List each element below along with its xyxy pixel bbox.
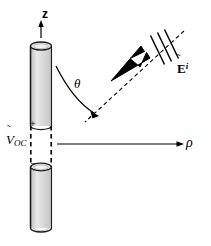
propagation-direction-arrow: [111, 46, 150, 81]
antenna-diagram-figure: z θ ρ ˜VOC ˜Ei + −: [0, 0, 211, 246]
open-circuit-voltage-label: ˜VOC: [6, 133, 26, 148]
theta-angle-label: θ: [74, 77, 80, 90]
efield-tilde-accent: ˜: [177, 53, 181, 64]
rho-axis-label: ρ: [186, 136, 193, 150]
theta-angle-arc: [56, 66, 99, 118]
efield-e-symbol: ˜E: [177, 61, 186, 76]
terminal-plus-sign: +: [30, 119, 36, 129]
rho-axis-arrow: [57, 141, 184, 147]
voc-v-symbol: ˜V: [6, 132, 14, 147]
z-axis-label: z: [42, 8, 48, 20]
incident-efield-label: ˜Ei: [177, 62, 188, 75]
dipole-lower-arm: [31, 163, 52, 232]
dipole-upper-arm: [31, 42, 52, 130]
ray-hash-marks: [151, 30, 179, 65]
voc-subscript: OC: [14, 138, 27, 148]
terminal-minus-sign: −: [30, 158, 36, 169]
efield-superscript: i: [186, 61, 189, 71]
voc-tilde-accent: ˜: [7, 124, 11, 135]
z-axis-arrow: [38, 20, 43, 38]
incident-ray-dashed-line: [85, 31, 184, 122]
